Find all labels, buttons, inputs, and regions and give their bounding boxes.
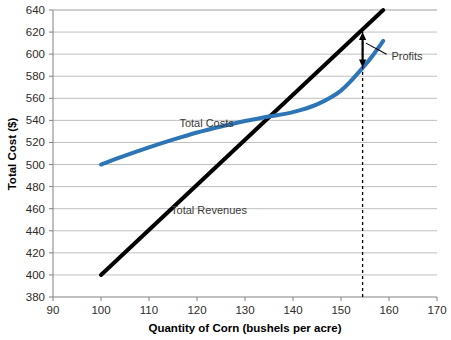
y-tick-label: 640 <box>26 4 45 16</box>
x-axis-title: Quantity of Corn (bushels per acre) <box>149 322 342 334</box>
x-tick-label: 170 <box>427 304 446 316</box>
y-tick-label: 560 <box>26 92 45 104</box>
y-tick-label: 420 <box>26 247 45 259</box>
y-tick-label: 500 <box>26 159 45 171</box>
y-tick-label: 460 <box>26 203 45 215</box>
total-cost-revenue-chart: 3804004204404604805005205405605806006206… <box>0 0 451 340</box>
x-tick-label: 160 <box>379 304 398 316</box>
y-tick-label: 480 <box>26 181 45 193</box>
y-tick-label: 440 <box>26 225 45 237</box>
x-tick-label: 140 <box>283 304 302 316</box>
y-tick-label: 400 <box>26 269 45 281</box>
series-label-total-costs: Total Costs <box>179 117 234 129</box>
y-tick-label: 520 <box>26 136 45 148</box>
series-label-total-revenues: Total Revenues <box>171 204 247 216</box>
y-tick-label: 540 <box>26 114 45 126</box>
x-tick-labels-group: 90100110120130140150160170 <box>47 304 447 316</box>
y-axis-title: Total Cost ($) <box>6 118 18 191</box>
x-tick-label: 110 <box>140 304 158 316</box>
chart-background <box>0 0 451 340</box>
profits-label: Profits <box>391 50 423 62</box>
y-tick-label: 620 <box>26 26 45 38</box>
x-tick-label: 100 <box>91 304 110 316</box>
chart-container: 3804004204404604805005205405605806006206… <box>0 0 451 340</box>
x-tick-label: 120 <box>187 304 206 316</box>
x-tick-label: 150 <box>331 304 350 316</box>
x-tick-label: 90 <box>47 304 60 316</box>
y-tick-label: 600 <box>26 48 45 60</box>
y-tick-label: 380 <box>26 291 45 303</box>
y-tick-label: 580 <box>26 70 45 82</box>
x-tick-label: 130 <box>235 304 254 316</box>
